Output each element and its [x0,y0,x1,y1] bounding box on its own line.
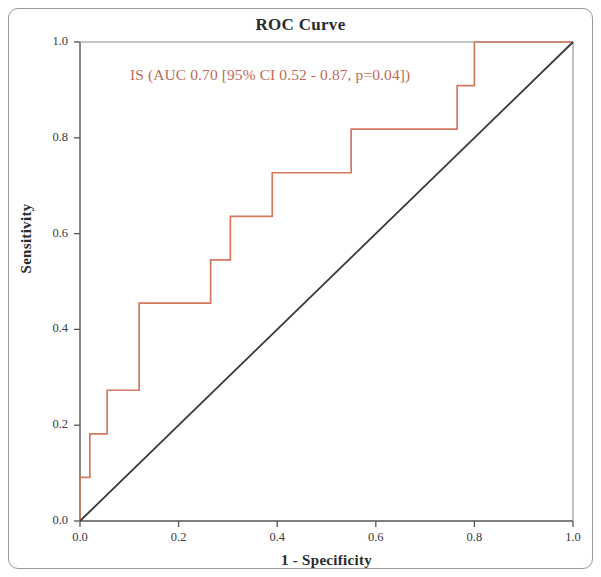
data-series [80,42,573,521]
reference-diagonal-line [80,42,573,521]
roc-curve-chart: ROC Curve IS (AUC 0.70 [95% CI 0.52 - 0.… [0,0,601,577]
plot-area-svg [0,0,601,577]
